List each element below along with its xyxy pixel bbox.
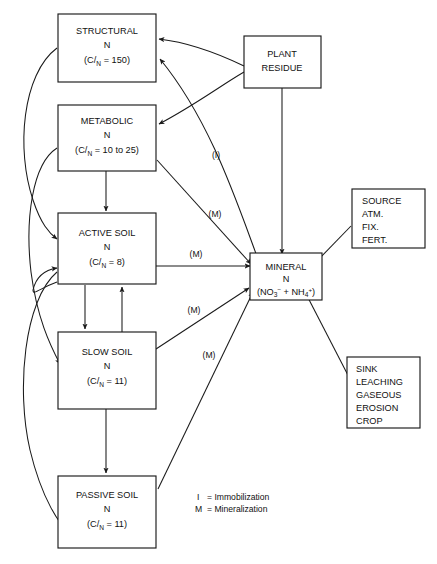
node-source-line1: SOURCE (362, 196, 401, 206)
legend-group: I = Immobilization M = Mineralization (195, 492, 270, 514)
node-sink-line3: GASEOUS (356, 390, 401, 400)
legend-immobilization-text: = Immobilization (207, 492, 270, 502)
edge-structural-to-active-soil (24, 48, 57, 239)
edge-label-mineralization-passive: (M) (203, 350, 216, 360)
edge-label-immobilization-structural: (I) (212, 150, 220, 160)
edge-passive-soil-to-active-soil (33, 268, 57, 292)
legend-mineralization-key: M (195, 504, 202, 514)
edge-mineral-to-sink (303, 288, 352, 383)
edge-plant-residue-to-metabolic (159, 72, 244, 124)
node-active-soil-n: N (104, 242, 111, 252)
nodes-group (58, 14, 425, 548)
node-sink-line1: SINK (356, 364, 378, 374)
node-plant-residue-box[interactable] (244, 36, 321, 88)
node-passive-soil-ratio: (C/N = 11) (87, 519, 127, 531)
node-metabolic-title: METABOLIC (81, 116, 134, 126)
node-passive-soil-title: PASSIVE SOIL (76, 490, 138, 500)
node-active-soil-ratio: (C/N = 8) (89, 257, 125, 269)
node-source-line3: FIX. (362, 222, 379, 232)
edge-label-mineralization-metabolic: (M) (209, 209, 222, 219)
node-source-line4: FERT. (362, 235, 387, 245)
node-mineral-n: N (283, 274, 290, 284)
edge-metabolic-to-slow-soil (29, 148, 60, 364)
node-sink-line2: LEACHING (356, 377, 403, 387)
legend-mineralization-text: = Mineralization (207, 504, 268, 514)
node-mineral-title: MINERAL (266, 262, 307, 272)
node-structural-n: N (104, 40, 111, 50)
node-active-soil-title: ACTIVE SOIL (79, 228, 136, 238)
legend-immobilization-key: I (197, 492, 199, 502)
edge-mineral-to-structural-immobilization (160, 59, 258, 259)
node-metabolic-n: N (104, 130, 111, 140)
edge-label-mineralization-active: (M) (190, 249, 203, 259)
node-passive-soil-n: N (104, 504, 111, 514)
node-plant-residue-line1: PLANT (267, 49, 297, 59)
edge-labels-group: (I) (M) (M) (M) (M) (188, 150, 222, 360)
edge-label-mineralization-slow: (M) (188, 305, 201, 315)
node-slow-soil-title: SLOW SOIL (82, 347, 133, 357)
edge-metabolic-to-mineral-mineralization (157, 160, 251, 264)
node-sink-line4: EROSION (356, 403, 398, 413)
node-slow-soil-ratio: (C/N = 11) (87, 376, 127, 388)
node-metabolic-ratio: (C/N = 10 to 25) (75, 145, 139, 157)
edge-plant-residue-to-structural (159, 39, 244, 66)
node-sink-line5: CROP (356, 416, 383, 426)
node-structural-ratio: (C/N = 150) (84, 55, 130, 67)
edge-passive-soil-to-mineral-mineralization (158, 292, 253, 489)
nitrogen-cycle-diagram: STRUCTURAL N (C/N = 150) METABOLIC N (C/… (0, 0, 437, 564)
node-slow-soil-n: N (104, 361, 111, 371)
node-plant-residue-line2: RESIDUE (262, 63, 303, 73)
node-source-line2: ATM. (362, 209, 383, 219)
node-structural-title: STRUCTURAL (76, 26, 138, 36)
edge-slow-soil-to-mineral-mineralization (156, 288, 249, 349)
